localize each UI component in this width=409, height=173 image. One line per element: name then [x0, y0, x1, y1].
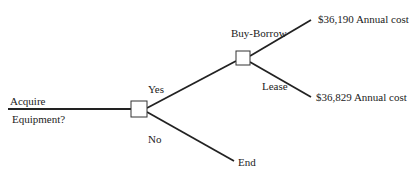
branch-no-label: No: [148, 133, 161, 145]
outcome-lease-label: $36,829 Annual cost: [316, 91, 407, 103]
root-label-line2: Equipment?: [12, 113, 65, 125]
branch-yes-label: Yes: [148, 83, 164, 95]
sub-branch-buy-label: Buy-Borrow: [231, 27, 287, 39]
decision-node-buy-lease: [236, 51, 250, 65]
sub-branch-lease-label: Lease: [262, 80, 288, 92]
decision-tree-lines: [0, 0, 409, 173]
no-outcome-label: End: [238, 156, 256, 168]
decision-node-acquire: [131, 101, 147, 117]
outcome-buy-label: $36,190 Annual cost: [318, 13, 409, 25]
root-label-line1: Acquire: [10, 95, 45, 107]
